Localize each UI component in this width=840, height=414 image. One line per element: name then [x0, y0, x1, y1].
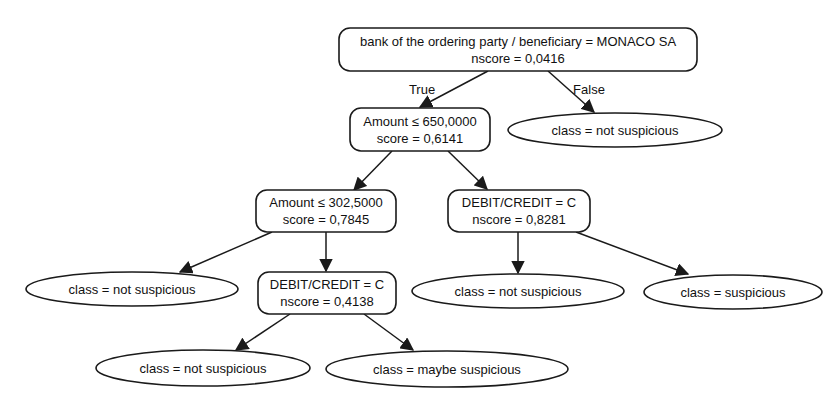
leaf-debit-credit-1-right-label: class = suspicious	[680, 285, 786, 300]
node-debit-credit-2: DEBIT/CREDIT = C nscore = 0,4138	[258, 272, 396, 314]
node-amount-302-score: score = 0,7845	[283, 212, 369, 227]
node-amount-302-condition: Amount ≤ 302,5000	[269, 195, 382, 210]
node-root-condition: bank of the ordering party / beneficiary…	[360, 34, 676, 49]
leaf-root-false: class = not suspicious	[508, 113, 722, 147]
leaf-amount-302-left-label: class = not suspicious	[69, 282, 196, 297]
decision-tree-diagram: True False bank of the ordering party / …	[0, 0, 840, 414]
node-root: bank of the ordering party / beneficiary…	[339, 28, 697, 71]
node-debit-credit-1-score: nscore = 0,8281	[472, 212, 566, 227]
edge-amount650-left	[354, 151, 392, 190]
node-amount-650-score: score = 0,6141	[377, 131, 463, 146]
edge-dc2-left	[236, 314, 290, 350]
node-debit-credit-1-condition: DEBIT/CREDIT = C	[462, 195, 576, 210]
leaf-debit-credit-2-left: class = not suspicious	[96, 350, 310, 386]
leaf-root-false-label: class = not suspicious	[552, 123, 679, 138]
edge-label-true: True	[409, 82, 435, 97]
leaf-debit-credit-1-right: class = suspicious	[644, 275, 822, 309]
edge-dc1-right	[576, 232, 688, 274]
leaf-debit-credit-2-right: class = maybe suspicious	[326, 351, 568, 387]
edge-label-false: False	[573, 82, 605, 97]
node-amount-650-condition: Amount ≤ 650,0000	[363, 114, 476, 129]
node-debit-credit-2-condition: DEBIT/CREDIT = C	[270, 277, 384, 292]
node-debit-credit-2-score: nscore = 0,4138	[280, 294, 374, 309]
leaf-debit-credit-2-left-label: class = not suspicious	[140, 361, 267, 376]
edge-amount650-right	[448, 151, 487, 189]
node-root-score: nscore = 0,0416	[471, 51, 565, 66]
leaf-debit-credit-2-right-label: class = maybe suspicious	[373, 362, 521, 377]
leaf-amount-302-left: class = not suspicious	[26, 272, 238, 306]
leaf-debit-credit-1-left-label: class = not suspicious	[455, 284, 582, 299]
edge-amount302-left	[180, 232, 272, 272]
leaf-debit-credit-1-left: class = not suspicious	[412, 274, 624, 308]
node-amount-302: Amount ≤ 302,5000 score = 0,7845	[256, 190, 396, 232]
node-amount-650: Amount ≤ 650,0000 score = 0,6141	[350, 108, 490, 151]
node-debit-credit-1: DEBIT/CREDIT = C nscore = 0,8281	[448, 190, 590, 232]
edge-dc2-right	[364, 314, 413, 350]
